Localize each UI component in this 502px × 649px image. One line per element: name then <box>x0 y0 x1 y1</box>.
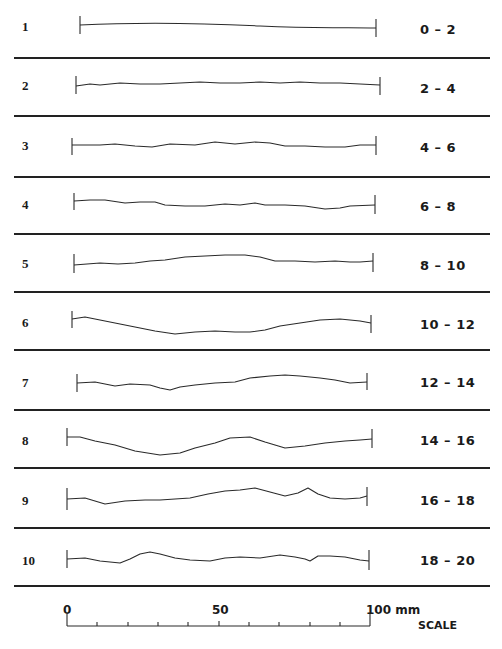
trace-2 <box>76 82 380 86</box>
row-divider <box>14 291 490 293</box>
row-divider <box>14 176 490 178</box>
row-range: 0 – 2 <box>420 22 456 37</box>
row-number: 10 <box>22 553 35 569</box>
row-range: 8 – 10 <box>420 258 466 273</box>
trace-1 <box>80 23 376 28</box>
trace-9 <box>67 488 367 504</box>
trace-3 <box>72 142 376 147</box>
row-number: 3 <box>22 138 29 154</box>
row-divider <box>14 57 490 59</box>
row-number: 7 <box>22 375 29 391</box>
row-range: 14 – 16 <box>420 433 475 448</box>
row-divider <box>14 349 490 351</box>
row-range: 12 – 14 <box>420 375 475 390</box>
row-divider <box>14 467 490 469</box>
scale-tick-50-label: 50 <box>212 603 229 617</box>
row-divider <box>14 115 490 117</box>
trace-10 <box>67 552 369 563</box>
trace-8 <box>67 437 372 455</box>
row-number: 1 <box>22 19 29 35</box>
row-divider <box>14 585 490 587</box>
row-number: 5 <box>22 256 29 272</box>
scale-tick-0-label: 0 <box>63 603 71 617</box>
row-range: 4 – 6 <box>420 140 456 155</box>
row-number: 9 <box>22 493 29 509</box>
row-number: 8 <box>22 433 29 449</box>
row-divider <box>14 409 490 411</box>
row-range: 10 – 12 <box>420 317 475 332</box>
row-divider <box>14 527 490 529</box>
row-number: 2 <box>22 78 29 94</box>
scale-title: SCALE <box>418 619 457 632</box>
row-divider <box>14 233 490 235</box>
trace-5 <box>74 255 373 265</box>
trace-7 <box>77 375 367 390</box>
row-range: 2 – 4 <box>420 81 456 96</box>
row-range: 18 – 20 <box>420 553 475 568</box>
scale-tick-100-label: 100 mm <box>366 603 420 617</box>
row-range: 16 – 18 <box>420 493 475 508</box>
row-range: 6 – 8 <box>420 199 456 214</box>
row-number: 4 <box>22 197 29 213</box>
trace-6 <box>72 317 371 334</box>
trace-4 <box>74 200 375 209</box>
row-number: 6 <box>22 315 29 331</box>
